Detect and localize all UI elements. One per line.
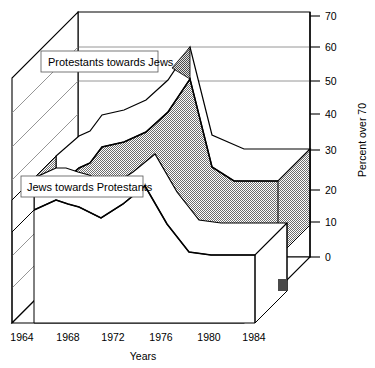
x-tick-label-1980: 1980 [197,331,221,343]
x-tick-label-1984: 1984 [242,331,266,343]
x-tick-label-1968: 1968 [56,331,80,343]
x-tick-label-1964: 1964 [10,331,34,343]
annotation-back-label: Protestants towards Jews [48,56,174,68]
y-tick-label-60: 60 [325,41,337,53]
annotation-jews-towards-protestants: Jews towards Protestants [21,176,153,197]
y-tick-label-10: 10 [325,216,337,228]
x-axis: 1964 1968 1972 1976 1980 1984 Years [10,331,266,362]
chart-container: 70 60 50 40 30 20 10 0 Percent over 70 1… [0,0,375,368]
y-axis-title: Percent over 70 [356,103,368,177]
annotation-front-label: Jews towards Protestants [27,181,153,193]
ribbon-chart-svg: 70 60 50 40 30 20 10 0 Percent over 70 1… [0,0,375,368]
x-axis-title: Years [130,350,156,362]
back-ribbon-foot [278,279,287,291]
annotation-protestants-towards-jews: Protestants towards Jews [41,51,174,72]
y-tick-label-40: 40 [325,108,337,120]
y-axis: 70 60 50 40 30 20 10 0 Percent over 70 [310,10,368,263]
x-tick-label-1976: 1976 [149,331,173,343]
y-tick-label-50: 50 [325,75,337,87]
y-tick-label-0: 0 [325,251,331,263]
y-tick-label-70: 70 [325,10,337,22]
y-tick-label-30: 30 [325,144,337,156]
x-tick-label-1972: 1972 [101,331,125,343]
y-tick-label-20: 20 [325,184,337,196]
